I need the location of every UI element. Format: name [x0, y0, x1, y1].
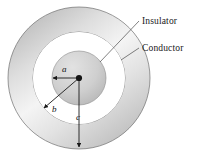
coaxial-cable-figure: Insulator Conductor a b c	[0, 0, 211, 156]
radius-a-label: a	[62, 65, 67, 74]
center-point-dot	[76, 75, 82, 81]
radius-b-label: b	[52, 105, 57, 114]
insulator-label: Insulator	[142, 17, 177, 27]
radius-c-label: c	[76, 113, 80, 122]
coaxial-cable-cross-section-drawing	[0, 0, 211, 156]
conductor-label: Conductor	[142, 44, 183, 54]
